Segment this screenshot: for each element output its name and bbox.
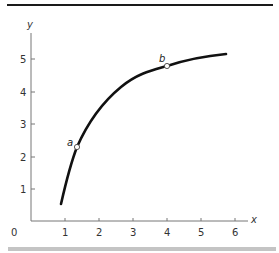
point-a-marker — [74, 144, 79, 149]
chart: 1 2 3 4 5 1 2 3 4 5 6 0 x y a b — [0, 0, 279, 253]
x-tick-label-2: 2 — [96, 227, 102, 238]
y-tick-label-2: 2 — [20, 152, 26, 163]
x-tick-label-5: 5 — [198, 227, 204, 238]
x-tick-label-3: 3 — [130, 227, 136, 238]
x-tick-label-1: 1 — [62, 227, 68, 238]
y-tick-label-1: 1 — [20, 184, 26, 195]
y-tick-label-4: 4 — [20, 87, 26, 98]
bottom-bar — [8, 247, 276, 251]
y-axis-label: y — [26, 19, 34, 30]
y-ticks — [31, 59, 35, 189]
x-axis-label: x — [250, 214, 257, 225]
x-tick-label-4: 4 — [164, 227, 170, 238]
point-a-label: a — [67, 137, 73, 148]
point-b-label: b — [159, 53, 165, 64]
y-tick-label-3: 3 — [20, 119, 26, 130]
x-tick-label-6: 6 — [232, 227, 238, 238]
point-b-marker — [164, 63, 169, 68]
curve-line — [61, 54, 226, 204]
origin-label: 0 — [11, 227, 17, 238]
y-tick-label-5: 5 — [20, 54, 26, 65]
